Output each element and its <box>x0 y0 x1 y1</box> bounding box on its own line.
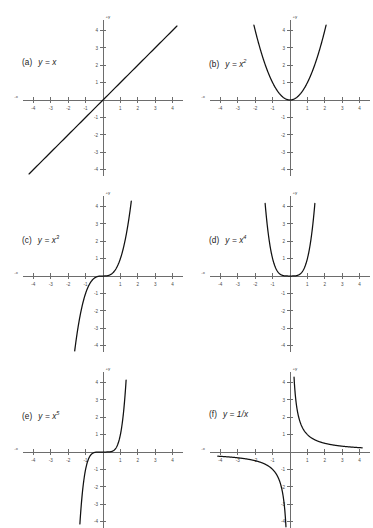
y-tick-label: 4 <box>95 380 98 385</box>
y-tick-label: -4 <box>281 343 286 348</box>
x-tick-label: 2 <box>137 106 140 111</box>
x-tick-label: -2 <box>66 106 71 111</box>
y-tick-label: 4 <box>95 204 98 209</box>
x-tick-label: -4 <box>218 282 223 287</box>
y-tick-label: -2 <box>94 309 99 314</box>
plot-area: -4-3-2-112344321-1-2-3-4+x-x+y-y <box>0 176 187 352</box>
y-tick-label: -4 <box>94 519 99 524</box>
y-tick-label: -2 <box>94 133 99 138</box>
x-tick-label: 4 <box>358 458 361 463</box>
panel-caption-tag: (b) <box>209 60 219 69</box>
y-tick-label: -3 <box>94 150 99 155</box>
x-tick-label: -4 <box>31 282 36 287</box>
curve-reciprocal-left-branch <box>218 456 286 527</box>
equation-base: 1/x <box>237 410 248 419</box>
panel-caption-tag: (a) <box>22 58 32 67</box>
panel-c: -4-3-2-112344321-1-2-3-4+x-x+y-y(c)y = x… <box>0 176 187 352</box>
x-axis-negative-label: -x <box>14 446 18 451</box>
y-tick-label: 2 <box>282 63 285 68</box>
x-tick-label: 3 <box>154 282 157 287</box>
y-tick-label: 3 <box>282 398 285 403</box>
x-tick-label: -3 <box>49 458 54 463</box>
panel-caption-tag: (e) <box>22 412 32 421</box>
panel-caption-tag: (d) <box>209 236 219 245</box>
panel-caption: (a)y = x <box>22 58 56 67</box>
y-tick-label: -1 <box>281 115 286 120</box>
y-tick-label: -2 <box>281 309 286 314</box>
x-tick-label: 4 <box>171 458 174 463</box>
x-axis-negative-label: -x <box>201 446 205 451</box>
plot-area: -4-3-2-112344321-1-2-3-4+x-x+y-y <box>0 0 187 176</box>
equation-lhs: y = <box>38 58 49 67</box>
panel-caption: (f)y = 1/x <box>209 410 248 419</box>
y-tick-label: -1 <box>94 291 99 296</box>
x-axis-negative-label: -x <box>14 94 18 99</box>
equation-lhs: y = <box>225 236 236 245</box>
y-tick-label: -4 <box>281 167 286 172</box>
plot-area: -4-3-2-112344321-1-2-3-4+x-x+y-y <box>187 352 373 528</box>
x-axis-negative-label: -x <box>201 270 205 275</box>
x-tick-label: 2 <box>137 282 140 287</box>
equation-exponent: 4 <box>243 234 246 240</box>
y-tick-label: -4 <box>94 167 99 172</box>
y-tick-label: -3 <box>94 502 99 507</box>
panel-caption-equation: y = x4 <box>225 236 246 245</box>
x-tick-label: -4 <box>31 106 36 111</box>
y-tick-label: 1 <box>95 432 98 437</box>
x-tick-label: -4 <box>31 458 36 463</box>
y-tick-label: -1 <box>281 291 286 296</box>
equation-lhs: y = <box>38 412 49 421</box>
y-tick-label: -1 <box>94 467 99 472</box>
x-tick-label: 2 <box>324 282 327 287</box>
x-tick-label: 2 <box>137 458 140 463</box>
equation-lhs: y = <box>225 60 236 69</box>
x-tick-label: 4 <box>358 106 361 111</box>
plot-area: -4-3-2-112344321-1-2-3-4+x-x+y-y <box>0 352 187 528</box>
panel-caption-tag: (f) <box>209 410 217 419</box>
y-tick-label: -2 <box>281 133 286 138</box>
x-tick-label: 1 <box>119 282 122 287</box>
x-axis-negative-label: -x <box>14 270 18 275</box>
y-tick-label: -4 <box>281 519 286 524</box>
panel-e: -4-3-2-112344321-1-2-3-4+x-x+y-y(e)y = x… <box>0 352 187 528</box>
x-tick-label: -3 <box>49 282 54 287</box>
y-tick-label: 3 <box>95 46 98 51</box>
panel-d: -4-3-2-112344321-1-2-3-4+x-x+y-y(d)y = x… <box>187 176 373 352</box>
y-tick-label: -3 <box>94 326 99 331</box>
x-tick-label: -2 <box>253 106 258 111</box>
panel-caption-equation: y = 1/x <box>223 410 248 419</box>
panel-caption: (e)y = x5 <box>22 410 60 421</box>
y-axis-positive-label: +y <box>293 366 299 371</box>
panel-caption-equation: y = x5 <box>38 412 59 421</box>
x-tick-label: 2 <box>324 458 327 463</box>
y-axis-positive-label: +y <box>293 14 299 19</box>
x-tick-label: -2 <box>253 282 258 287</box>
panel-a: -4-3-2-112344321-1-2-3-4+x-x+y-y(a)y = x <box>0 0 187 176</box>
equation-exponent: 2 <box>243 58 246 64</box>
x-tick-label: -4 <box>218 458 223 463</box>
x-tick-label: -2 <box>66 458 71 463</box>
x-tick-label: 4 <box>171 106 174 111</box>
y-tick-label: 4 <box>95 28 98 33</box>
x-tick-label: 1 <box>119 458 122 463</box>
x-tick-label: -3 <box>236 106 241 111</box>
y-tick-label: 1 <box>282 80 285 85</box>
y-axis-positive-label: +y <box>293 190 299 195</box>
x-tick-label: 3 <box>154 106 157 111</box>
panel-f: -4-3-2-112344321-1-2-3-4+x-x+y-y(f)y = 1… <box>187 352 373 528</box>
y-tick-label: -1 <box>94 115 99 120</box>
y-tick-label: 3 <box>282 222 285 227</box>
x-tick-label: -1 <box>271 458 276 463</box>
y-tick-label: 1 <box>282 432 285 437</box>
y-tick-label: 2 <box>282 239 285 244</box>
y-tick-label: 2 <box>95 415 98 420</box>
y-tick-label: 4 <box>282 28 285 33</box>
curve-reciprocal-right-branch <box>294 377 362 448</box>
y-tick-label: 2 <box>282 415 285 420</box>
equation-lhs: y = <box>38 236 49 245</box>
y-axis-positive-label: +y <box>106 366 112 371</box>
equation-exponent: 5 <box>56 410 59 416</box>
x-tick-label: 1 <box>306 282 309 287</box>
panel-caption: (d)y = x4 <box>209 234 247 245</box>
y-tick-label: 2 <box>95 239 98 244</box>
